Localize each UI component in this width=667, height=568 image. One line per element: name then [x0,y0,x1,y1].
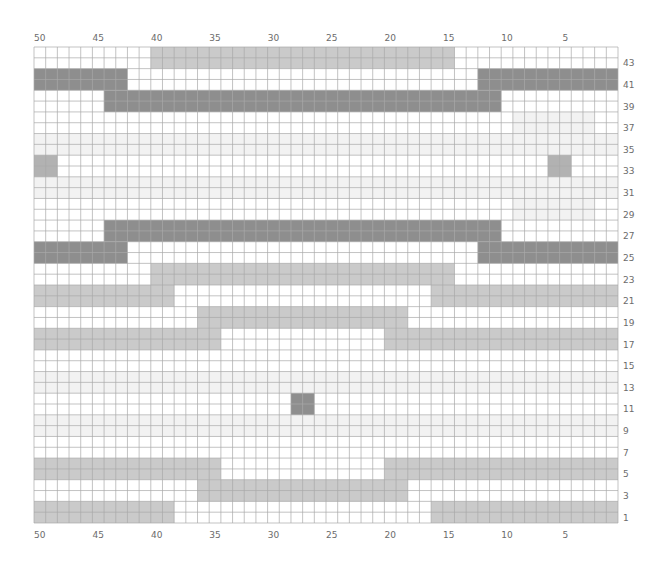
column-label: 5 [563,530,569,540]
column-label: 35 [209,33,220,43]
column-labels-bottom: 5045403530252015105 [34,530,568,540]
row-label: 29 [623,210,635,220]
row-label: 17 [623,340,634,350]
column-label: 10 [501,530,513,540]
column-label: 50 [34,530,46,540]
column-label: 15 [443,33,454,43]
row-label: 41 [623,80,634,90]
column-label: 10 [501,33,513,43]
column-label: 30 [268,530,280,540]
row-label: 25 [623,253,634,263]
column-label: 20 [385,530,397,540]
column-labels-top: 5045403530252015105 [34,33,568,43]
row-label: 19 [623,318,635,328]
row-label: 13 [623,383,634,393]
row-label: 15 [623,361,634,371]
row-label: 21 [623,296,634,306]
row-label: 27 [623,231,634,241]
row-label: 35 [623,145,634,155]
column-label: 35 [209,530,220,540]
column-label: 30 [268,33,280,43]
column-label: 40 [151,33,163,43]
row-label: 5 [623,469,629,479]
column-label: 20 [385,33,397,43]
row-label: 37 [623,123,634,133]
column-label: 45 [93,530,104,540]
row-label: 23 [623,275,634,285]
row-label: 33 [623,166,634,176]
row-label: 31 [623,188,634,198]
column-label: 15 [443,530,454,540]
column-label: 45 [93,33,104,43]
row-label: 39 [623,102,635,112]
row-label: 11 [623,404,634,414]
row-labels: 434139373533312927252321191715131197531 [623,58,635,522]
column-label: 25 [326,33,337,43]
row-label: 7 [623,448,629,458]
column-label: 40 [151,530,163,540]
row-label: 43 [623,58,634,68]
column-label: 50 [34,33,46,43]
row-label: 3 [623,491,629,501]
knitting-chart: 5045403530252015105 5045403530252015105 … [0,0,667,568]
row-label: 1 [623,513,629,523]
column-label: 5 [563,33,569,43]
column-label: 25 [326,530,337,540]
row-label: 9 [623,426,629,436]
